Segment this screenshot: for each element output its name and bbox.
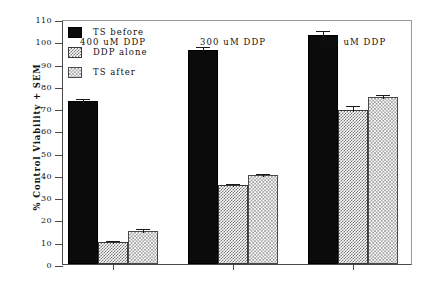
y-axis-tick-label: 100 (36, 38, 52, 47)
y-axis-tick: 70 (55, 110, 63, 111)
error-bar-stem (353, 106, 354, 113)
legend-item: TS before (68, 22, 188, 42)
bar (98, 242, 128, 264)
y-axis-tick-label: 30 (41, 194, 52, 203)
legend-swatch-icon (68, 67, 82, 78)
legend-swatch-icon (68, 27, 82, 38)
y-axis-tick: 60 (55, 132, 63, 133)
bar (128, 231, 158, 264)
x-axis-tick (113, 264, 114, 270)
bar (308, 35, 338, 264)
x-axis-tick-label: 300 uM DDP (200, 37, 266, 47)
y-axis-tick: 40 (55, 177, 63, 178)
x-axis-tick-label: 200 uM DDP (320, 37, 386, 47)
legend-label: TS before (93, 27, 144, 37)
legend-swatch-icon (68, 47, 82, 58)
y-axis-tick: 50 (55, 155, 63, 156)
y-axis-tick-label: 40 (41, 172, 52, 181)
y-axis-tick-label: 20 (41, 216, 52, 225)
bar (248, 175, 278, 264)
y-axis-tick-label: 0 (47, 261, 53, 270)
bar (368, 97, 398, 264)
y-axis-tick: 30 (55, 199, 63, 200)
bar (218, 185, 248, 264)
y-axis-tick: 10 (55, 244, 63, 245)
y-axis-tick: 100 (55, 43, 63, 44)
x-axis-tick (353, 264, 354, 270)
bar (338, 110, 368, 264)
y-axis-tick: 0 (55, 266, 63, 267)
y-axis-tick-label: 110 (36, 16, 52, 25)
bar-chart-figure: % Control Viability + SEM 01020304050607… (0, 0, 433, 303)
y-axis-tick-label: 70 (41, 105, 52, 114)
legend-item: TS after (68, 62, 188, 82)
y-axis-tick: 20 (55, 221, 63, 222)
legend-label: DDP alone (93, 47, 147, 57)
y-axis-tick-label: 60 (41, 127, 52, 136)
y-axis-tick-label: 50 (41, 150, 52, 159)
x-axis-tick (233, 264, 234, 270)
y-axis-tick: 90 (55, 66, 63, 67)
chart-legend: TS beforeDDP aloneTS after (68, 22, 188, 82)
error-bar-cap (76, 99, 90, 100)
bar (188, 50, 218, 264)
error-bar-cap (316, 31, 330, 32)
y-axis-tick-label: 10 (41, 239, 52, 248)
bar (68, 101, 98, 264)
y-axis-tick: 110 (55, 21, 63, 22)
legend-item: DDP alone (68, 42, 188, 62)
error-bar-cap (226, 184, 240, 185)
y-axis-tick-label: 90 (41, 61, 52, 70)
legend-label: TS after (93, 67, 136, 77)
error-bar-cap (136, 229, 150, 230)
error-bar-cap (376, 95, 390, 96)
error-bar-cap (346, 106, 360, 107)
y-axis-tick: 80 (55, 88, 63, 89)
error-bar-cap (256, 174, 270, 175)
error-bar-cap (106, 241, 120, 242)
y-axis-tick-label: 80 (41, 83, 52, 92)
